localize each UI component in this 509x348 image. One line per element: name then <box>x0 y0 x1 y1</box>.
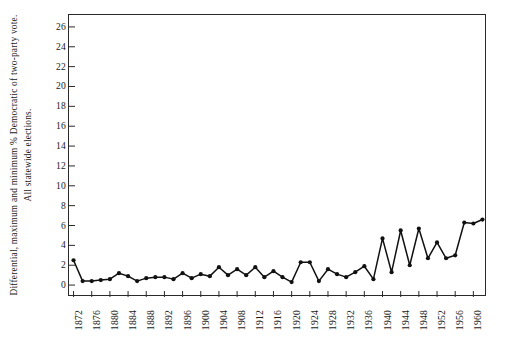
data-point <box>253 265 257 269</box>
data-point <box>262 275 266 279</box>
chart-figure: Differential, maximum and minimum % Demo… <box>0 0 509 348</box>
data-point <box>235 267 239 271</box>
data-point <box>271 269 275 273</box>
data-point <box>144 276 148 280</box>
data-point <box>90 279 94 283</box>
data-point <box>344 275 348 279</box>
x-tick-label: 1928 <box>327 310 338 330</box>
x-tick-label: 1936 <box>363 310 374 330</box>
x-tick-label: 1880 <box>109 310 120 330</box>
y-tick-label: 14 <box>46 140 66 151</box>
data-point <box>399 228 403 232</box>
x-tick-label: 1944 <box>400 310 411 330</box>
x-tick-label: 1948 <box>418 310 429 330</box>
data-point <box>199 272 203 276</box>
y-tick-label: 4 <box>46 239 66 250</box>
data-point <box>299 260 303 264</box>
data-point <box>108 277 112 281</box>
data-point <box>171 277 175 281</box>
x-tick-label: 1912 <box>254 310 265 330</box>
data-point <box>308 260 312 264</box>
x-tick-label: 1892 <box>163 310 174 330</box>
y-tick-label: 2 <box>46 259 66 270</box>
data-point <box>389 270 393 274</box>
data-point <box>162 275 166 279</box>
data-point <box>81 279 85 283</box>
y-tick-label: 12 <box>46 159 66 170</box>
data-point <box>453 253 457 257</box>
data-point <box>462 220 466 224</box>
y-tick-label: 18 <box>46 100 66 111</box>
data-point <box>99 278 103 282</box>
data-polyline <box>74 220 483 283</box>
data-point <box>353 270 357 274</box>
x-tick-label: 1872 <box>73 310 84 330</box>
x-tick-label: 1932 <box>345 310 356 330</box>
y-tick-label: 26 <box>46 20 66 31</box>
data-point <box>335 272 339 276</box>
data-point <box>380 236 384 240</box>
data-point <box>471 221 475 225</box>
data-point <box>426 256 430 260</box>
data-point <box>71 258 75 262</box>
x-tick-label: 1884 <box>127 310 138 330</box>
x-tick-label: 1888 <box>145 310 156 330</box>
data-point <box>280 275 284 279</box>
data-point <box>208 274 212 278</box>
data-point <box>444 256 448 260</box>
x-tick-label: 1960 <box>472 310 483 330</box>
y-tick-label: 20 <box>46 80 66 91</box>
x-tick-label: 1876 <box>91 310 102 330</box>
data-point <box>408 263 412 267</box>
y-tick-label: 16 <box>46 120 66 131</box>
data-point <box>126 274 130 278</box>
data-point <box>244 273 248 277</box>
x-tick-label: 1952 <box>436 310 447 330</box>
x-tick-label: 1924 <box>309 310 320 330</box>
y-axis-label-text: Differential, maximum and minimum % Demo… <box>8 14 35 296</box>
data-point <box>317 279 321 283</box>
plot-area <box>68 14 486 296</box>
data-point <box>417 226 421 230</box>
data-point <box>153 275 157 279</box>
x-tick-label: 1916 <box>272 310 283 330</box>
data-point <box>371 277 375 281</box>
x-tick-label: 1956 <box>454 310 465 330</box>
data-point <box>362 264 366 268</box>
data-point <box>435 240 439 244</box>
data-point <box>217 265 221 269</box>
x-tick-label: 1904 <box>218 310 229 330</box>
x-tick-label: 1900 <box>200 310 211 330</box>
x-tick-label: 1940 <box>382 310 393 330</box>
data-point <box>190 276 194 280</box>
x-tick-label: 1920 <box>291 310 302 330</box>
data-point <box>226 273 230 277</box>
y-tick-label: 24 <box>46 40 66 51</box>
data-point <box>180 271 184 275</box>
x-tick-label: 1896 <box>182 310 193 330</box>
y-tick-label: 8 <box>46 199 66 210</box>
y-tick-label: 22 <box>46 60 66 71</box>
data-point <box>117 271 121 275</box>
data-point <box>135 279 139 283</box>
y-tick-label: 6 <box>46 219 66 230</box>
x-tick-label: 1908 <box>236 310 247 330</box>
x-axis-tick-labels: 1872187618801884188818921896190019041908… <box>0 306 509 348</box>
data-point <box>290 280 294 284</box>
data-point <box>480 217 484 221</box>
series-line <box>69 15 487 297</box>
y-tick-label: 0 <box>46 279 66 290</box>
data-point <box>326 267 330 271</box>
y-tick-label: 10 <box>46 179 66 190</box>
y-axis-tick-labels: 02468101214161820222426 <box>44 0 66 348</box>
